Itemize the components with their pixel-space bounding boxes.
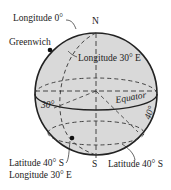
- leader-longitude-0: [66, 20, 76, 29]
- label-point-latitude: Latitude 40° S: [9, 158, 64, 168]
- label-longitude-0: Longitude 0°: [13, 13, 63, 23]
- point-dot: [70, 136, 75, 141]
- label-angle-30: 30°: [40, 100, 55, 110]
- label-point-longitude: Longitude 30° E: [9, 170, 72, 180]
- globe-diagram: N S Longitude 0° Greenwich Longitude 30°…: [0, 0, 171, 190]
- label-north: N: [92, 16, 99, 26]
- greenwich-dot: [48, 48, 53, 53]
- label-longitude-30e: Longitude 30° E: [78, 53, 141, 63]
- label-latitude-40s: Latitude 40° S: [108, 159, 163, 169]
- label-south: S: [92, 159, 97, 169]
- label-greenwich: Greenwich: [9, 37, 51, 47]
